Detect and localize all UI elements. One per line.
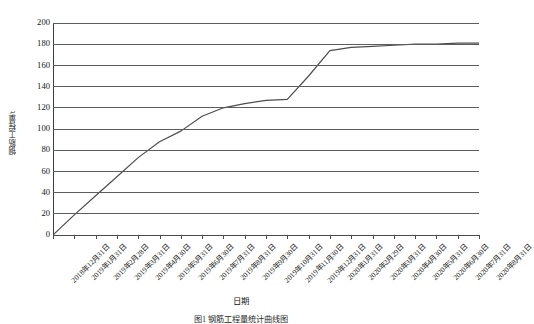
figure-caption: 图1 钢筋工程量统计曲线图 (0, 312, 482, 324)
x-axis-title: 日期 (0, 294, 482, 306)
